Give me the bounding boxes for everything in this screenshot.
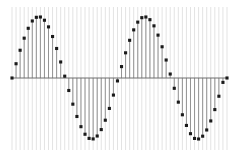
data-point-marker: [124, 51, 127, 54]
data-point-marker: [67, 89, 70, 92]
data-point-marker: [75, 115, 78, 118]
data-point-marker: [88, 137, 91, 140]
data-point-marker: [156, 34, 159, 37]
stem-plot-figure: [0, 0, 244, 157]
data-point-marker: [51, 35, 54, 38]
data-point-marker: [79, 125, 82, 128]
data-point-marker: [181, 113, 184, 116]
data-point-marker: [197, 137, 200, 140]
data-point-marker: [15, 62, 18, 65]
data-point-marker: [47, 25, 50, 28]
data-point-marker: [23, 37, 26, 40]
data-point-marker: [225, 76, 228, 79]
data-point-marker: [205, 128, 208, 131]
data-point-marker: [201, 135, 204, 138]
data-point-marker: [10, 76, 13, 79]
data-point-marker: [27, 27, 30, 30]
data-point-marker: [217, 95, 220, 98]
data-point-marker: [161, 45, 164, 48]
plot-canvas: [0, 0, 244, 157]
data-point-marker: [63, 75, 66, 78]
data-point-marker: [19, 49, 22, 52]
data-point-marker: [31, 19, 34, 22]
data-point-marker: [43, 19, 46, 22]
data-point-marker: [193, 137, 196, 140]
data-point-marker: [83, 133, 86, 136]
data-point-marker: [108, 107, 111, 110]
data-point-marker: [136, 21, 139, 24]
data-point-marker: [55, 47, 58, 50]
data-point-marker: [169, 72, 172, 75]
data-point-marker: [132, 28, 135, 31]
data-point-marker: [120, 65, 123, 68]
data-point-marker: [152, 24, 155, 27]
data-point-marker: [140, 16, 143, 19]
data-point-marker: [185, 124, 188, 127]
data-point-marker: [71, 103, 74, 106]
data-point-marker: [116, 79, 119, 82]
data-point-marker: [189, 132, 192, 135]
data-point-marker: [221, 81, 224, 84]
data-point-marker: [92, 137, 95, 140]
data-point-marker: [177, 101, 180, 104]
data-point-marker: [213, 108, 216, 111]
data-point-marker: [100, 128, 103, 131]
data-point-marker: [148, 18, 151, 21]
data-point-marker: [59, 60, 62, 63]
data-point-marker: [165, 58, 168, 61]
data-point-marker: [39, 15, 42, 18]
data-point-marker: [104, 119, 107, 122]
data-point-marker: [128, 39, 131, 42]
data-point-marker: [209, 119, 212, 122]
data-point-marker: [96, 134, 99, 137]
data-point-marker: [35, 16, 38, 19]
data-point-marker: [144, 15, 147, 18]
data-point-marker: [112, 94, 115, 97]
data-point-marker: [173, 87, 176, 90]
